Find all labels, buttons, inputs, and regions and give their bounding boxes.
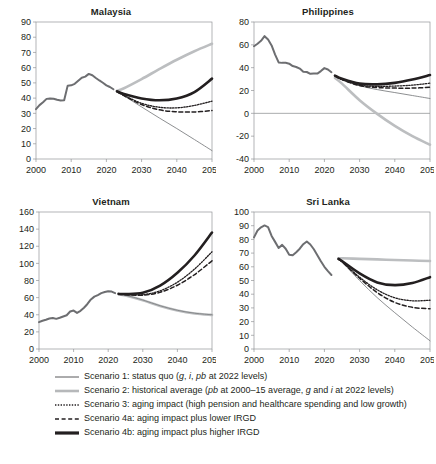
svg-text:80: 80 (21, 32, 31, 42)
legend-swatch-scenario-3-icon (55, 399, 81, 411)
panel-srilanka: Sri Lanka 010203040506070809010020002010… (222, 196, 434, 371)
svg-text:2020: 2020 (314, 165, 334, 175)
svg-text:2030: 2030 (350, 355, 370, 365)
svg-text:2000: 2000 (26, 165, 46, 175)
svg-text:20: 20 (21, 124, 31, 134)
svg-text:80: 80 (24, 276, 34, 286)
svg-text:2010: 2010 (279, 165, 299, 175)
legend-item-scenario-2: Scenario 2: historical average (pb at 20… (55, 385, 436, 397)
svg-text:-20: -20 (236, 131, 249, 141)
legend-label-scenario-4a: Scenario 4a: aging impact plus lower IRG… (84, 413, 436, 424)
svg-text:60: 60 (239, 262, 249, 272)
panel-malaysia: Malaysia 0102030405060708090200020102020… (6, 6, 216, 181)
svg-text:80: 80 (239, 235, 249, 245)
svg-text:30: 30 (21, 109, 31, 119)
svg-text:100: 100 (19, 259, 34, 269)
svg-text:2010: 2010 (279, 355, 299, 365)
svg-text:2040: 2040 (385, 355, 405, 365)
legend-label-scenario-3: Scenario 3: aging impact (high pension a… (84, 399, 436, 410)
svg-text:40: 40 (239, 289, 249, 299)
legend-label-scenario-1: Scenario 1: status quo (g, i, pb at 2022… (84, 371, 436, 382)
legend-item-scenario-4a: Scenario 4a: aging impact plus lower IRG… (55, 413, 436, 425)
svg-text:0: 0 (26, 154, 31, 164)
svg-text:60: 60 (239, 40, 249, 50)
legend-label-scenario-2: Scenario 2: historical average (pb at 20… (84, 385, 436, 396)
svg-text:2040: 2040 (167, 355, 187, 365)
svg-text:2010: 2010 (61, 165, 81, 175)
svg-text:2030: 2030 (132, 165, 152, 175)
svg-text:70: 70 (21, 48, 31, 58)
svg-text:2050: 2050 (420, 355, 434, 365)
svg-text:20: 20 (24, 327, 34, 337)
svg-text:10: 10 (239, 331, 249, 341)
panel-philippines: Philippines -40-200204060802000201020202… (222, 6, 434, 181)
svg-text:0: 0 (244, 344, 249, 354)
figure-root: Malaysia 0102030405060708090200020102020… (0, 0, 436, 464)
svg-text:90: 90 (21, 17, 31, 27)
svg-text:120: 120 (19, 241, 34, 251)
svg-text:2050: 2050 (420, 165, 434, 175)
svg-text:2000: 2000 (244, 165, 264, 175)
plot-malaysia: 0102030405060708090200020102020203020402… (6, 6, 216, 181)
panel-vietnam: Vietnam 02040608010012014016020002010202… (6, 196, 216, 371)
svg-text:60: 60 (24, 293, 34, 303)
svg-text:70: 70 (239, 248, 249, 258)
svg-text:0: 0 (244, 109, 249, 119)
svg-text:40: 40 (239, 63, 249, 73)
svg-text:80: 80 (239, 17, 249, 27)
svg-text:2040: 2040 (385, 165, 405, 175)
legend-item-scenario-1: Scenario 1: status quo (g, i, pb at 2022… (55, 371, 436, 383)
legend-swatch-scenario-1-icon (55, 371, 81, 383)
svg-text:40: 40 (21, 93, 31, 103)
svg-text:2050: 2050 (202, 355, 216, 365)
legend-swatch-scenario-2-icon (55, 385, 81, 397)
svg-text:2020: 2020 (314, 355, 334, 365)
svg-text:10: 10 (21, 139, 31, 149)
svg-text:2000: 2000 (29, 355, 49, 365)
svg-text:40: 40 (24, 310, 34, 320)
plot-vietnam: 0204060801001201401602000201020202030204… (6, 196, 216, 371)
svg-text:50: 50 (239, 276, 249, 286)
svg-text:2030: 2030 (350, 165, 370, 175)
svg-text:60: 60 (21, 63, 31, 73)
legend: Scenario 1: status quo (g, i, pb at 2022… (55, 371, 436, 441)
svg-text:90: 90 (239, 221, 249, 231)
svg-text:2020: 2020 (96, 165, 116, 175)
svg-text:20: 20 (239, 86, 249, 96)
svg-text:2030: 2030 (133, 355, 153, 365)
plot-philippines: -40-20020406080200020102020203020402050 (222, 6, 434, 181)
svg-text:2040: 2040 (167, 165, 187, 175)
svg-text:50: 50 (21, 78, 31, 88)
svg-text:2050: 2050 (202, 165, 216, 175)
svg-text:2000: 2000 (244, 355, 264, 365)
legend-swatch-scenario-4b-icon (55, 427, 81, 439)
svg-text:30: 30 (239, 303, 249, 313)
svg-text:160: 160 (19, 207, 34, 217)
svg-text:20: 20 (239, 317, 249, 327)
legend-swatch-scenario-4a-icon (55, 413, 81, 425)
svg-text:2010: 2010 (64, 355, 84, 365)
legend-item-scenario-4b: Scenario 4b: aging impact plus higher IR… (55, 427, 436, 439)
legend-item-scenario-3: Scenario 3: aging impact (high pension a… (55, 399, 436, 411)
svg-text:140: 140 (19, 224, 34, 234)
plot-srilanka: 0102030405060708090100200020102020203020… (222, 196, 434, 371)
svg-text:-40: -40 (236, 154, 249, 164)
svg-text:100: 100 (234, 207, 249, 217)
svg-text:0: 0 (29, 344, 34, 354)
legend-label-scenario-4b: Scenario 4b: aging impact plus higher IR… (84, 427, 436, 438)
svg-text:2020: 2020 (98, 355, 118, 365)
